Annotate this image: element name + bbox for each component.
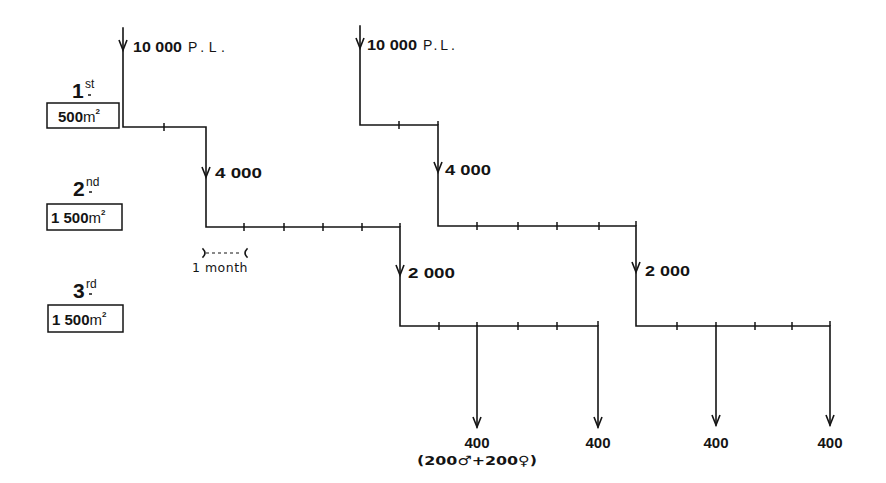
- cycle-2-transfer-2nd: 4 000: [445, 161, 491, 178]
- cycle-1-harvest-2: 400: [585, 434, 610, 451]
- stage-1-suffix: st: [85, 77, 95, 91]
- cycle-2-flow-line: [360, 26, 830, 425]
- cycle-1-stock-unit: P.L.: [188, 39, 225, 55]
- cycle-2-stock-unit: P.L.: [423, 37, 455, 53]
- cycle-2: 10 000 P.L. 4 000 2 000 400 400: [356, 26, 843, 451]
- stage-1-area: 500m2: [58, 107, 101, 125]
- cycle-1-harvest-sex-ratio: (200♂+200♀): [417, 453, 537, 468]
- stage-2-ordinal: 2: [73, 177, 85, 200]
- cycle-1-stock-count: 10 000: [133, 38, 182, 55]
- cycle-1-transfer-2nd: 4 000: [215, 164, 262, 181]
- stage-2-area: 1 500m2: [51, 208, 106, 226]
- production-cycle-diagram: 1 st 500m2 2 nd 1 500m2 3 rd 1 500m2 1 m…: [0, 0, 886, 483]
- cycle-2-harvest-2: 400: [817, 434, 842, 451]
- cycle-1-transfer-3rd: 2 000: [408, 264, 455, 281]
- cycle-2-transfer-3rd: 2 000: [645, 262, 690, 279]
- cycle-2-stock-count: 10 000: [367, 36, 417, 53]
- scale-label: 1 month: [192, 260, 248, 275]
- stage-3-label: 3 rd 1 500m2: [48, 277, 123, 332]
- stage-3-suffix: rd: [86, 277, 97, 291]
- cycle-1-harvest-1: 400: [464, 434, 489, 451]
- stage-2-suffix: nd: [86, 175, 99, 189]
- scale-right-bracket-icon: [245, 249, 247, 257]
- cycle-2-harvest-1: 400: [703, 434, 728, 451]
- cycle-1: 10 000 P.L. 4 000 2 000 400 400 (200♂+20…: [119, 28, 611, 468]
- time-scale-legend: 1 month: [192, 249, 248, 275]
- stage-1-label: 1 st 500m2: [47, 77, 119, 128]
- stage-2-label: 2 nd 1 500m2: [47, 175, 122, 230]
- stage-3-ordinal: 3: [73, 279, 85, 302]
- scale-left-bracket-icon: [203, 249, 205, 257]
- stage-3-area: 1 500m2: [52, 310, 107, 328]
- stage-1-ordinal: 1: [72, 79, 84, 102]
